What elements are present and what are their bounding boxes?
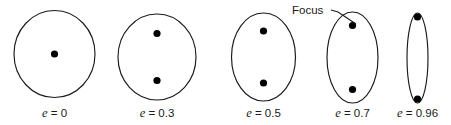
ellipse-group-e03: e = 0.3 [118, 14, 196, 120]
eccentricity-figure: e = 0 e = 0.3 e = 0.5 e [0, 0, 451, 125]
focus-annotation-label: Focus [292, 4, 324, 16]
caption-value: 0.96 [416, 107, 438, 119]
ellipse-group-e096: e = 0.96 [397, 13, 438, 120]
caption-value: 0.3 [158, 107, 174, 119]
caption-equals: = [48, 107, 61, 119]
focus-dot [153, 77, 160, 84]
ellipse-outline-e03 [118, 14, 196, 100]
focus-dot [260, 79, 267, 86]
ellipse-group-e05: e = 0.5 [232, 13, 296, 120]
focus-dot [153, 30, 160, 37]
caption-equals: = [341, 107, 354, 119]
caption-equals: = [403, 107, 416, 119]
caption-value: 0 [61, 107, 67, 119]
focus-dot [260, 27, 267, 34]
caption-equals: = [252, 107, 265, 119]
figure-canvas: e = 0 e = 0.3 e = 0.5 e [0, 0, 451, 125]
ellipse-group-e07: e = 0.7 [327, 12, 378, 120]
focus-dot [349, 86, 356, 93]
caption-e03: e = 0.3 [140, 106, 175, 120]
ellipse-outline-e096 [407, 13, 428, 103]
caption-value: 0.7 [354, 107, 370, 119]
focus-dot [414, 13, 421, 20]
caption-value: 0.5 [265, 107, 281, 119]
ellipse-group-e0: e = 0 [14, 11, 95, 121]
caption-e0: e = 0 [42, 106, 67, 120]
caption-e07: e = 0.7 [335, 106, 370, 120]
caption-e05: e = 0.5 [246, 106, 281, 120]
focus-dot [51, 50, 58, 57]
focus-dot [414, 95, 421, 102]
caption-e096: e = 0.96 [397, 106, 438, 120]
caption-equals: = [145, 107, 158, 119]
ellipse-outline-e05 [232, 13, 296, 101]
